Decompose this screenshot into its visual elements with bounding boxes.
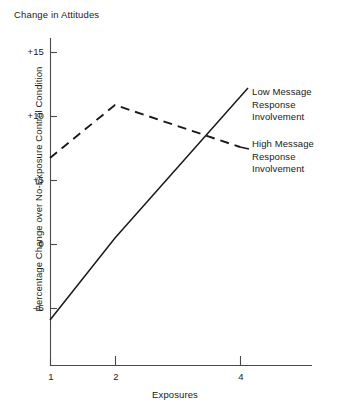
- leader-line-high-involvement: [240, 147, 249, 149]
- x-tick-label-2: 2: [106, 371, 126, 382]
- series-line-high-involvement: [50, 105, 240, 158]
- x-axis-title: Exposures: [110, 389, 240, 400]
- x-tick-label-1: 1: [41, 371, 61, 382]
- series-annotation-low-involvement: Low Message Response Involvement: [252, 86, 355, 124]
- chart-plot-area: [0, 0, 355, 412]
- series-line-low-involvement: [50, 97, 240, 320]
- series-annotation-high-involvement: High Message Response Involvement: [252, 138, 355, 176]
- y-tick-label-15: +15: [16, 46, 44, 57]
- y-axis-title: Percentage Change over No-Exposure Contr…: [33, 92, 44, 312]
- leader-line-low-involvement: [240, 88, 248, 97]
- chart-figure: Change in Attitudes +15 +10 +5 0 –5 1 2 …: [0, 0, 355, 412]
- x-tick-label-4: 4: [231, 371, 251, 382]
